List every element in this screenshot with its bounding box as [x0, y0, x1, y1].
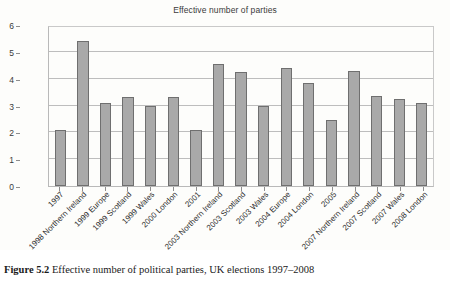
figure-caption-label: Figure 5.2 — [4, 264, 49, 275]
y-tick-label-1: 1 — [0, 155, 14, 165]
bar[interactable] — [258, 106, 269, 187]
bar[interactable] — [326, 120, 337, 186]
bar-slot — [49, 27, 72, 186]
chart-title: Effective number of parties — [0, 5, 450, 15]
bar[interactable] — [122, 97, 133, 186]
chart-area: Effective number of parties 0123456 1997… — [0, 0, 450, 250]
y-tick-mark-1 — [16, 160, 20, 161]
y-tick-mark-0 — [16, 187, 20, 188]
bar-slot — [207, 27, 230, 186]
figure-container: Effective number of parties 0123456 1997… — [0, 0, 450, 290]
bar[interactable] — [371, 96, 382, 186]
bar-slot — [388, 27, 411, 186]
bar-slot — [162, 27, 185, 186]
y-tick-label-5: 5 — [0, 48, 14, 58]
bar[interactable] — [168, 97, 179, 186]
bar-slot — [275, 27, 298, 186]
y-tick-label-2: 2 — [0, 128, 14, 138]
y-tick-label-3: 3 — [0, 102, 14, 112]
bar[interactable] — [55, 130, 66, 186]
bar-slot — [185, 27, 208, 186]
bar[interactable] — [213, 64, 224, 186]
bar-slot — [117, 27, 140, 186]
bar-slot — [252, 27, 275, 186]
bar-slot — [411, 27, 434, 186]
bar[interactable] — [145, 106, 156, 187]
y-tick-mark-3 — [16, 107, 20, 108]
figure-caption: Figure 5.2 Effective number of political… — [4, 264, 446, 277]
y-tick-mark-4 — [16, 80, 20, 81]
bar-slot — [298, 27, 321, 186]
bar[interactable] — [235, 72, 246, 186]
bar[interactable] — [348, 71, 359, 186]
bar-slot — [94, 27, 117, 186]
plot-area — [48, 26, 434, 187]
bar[interactable] — [394, 99, 405, 186]
bar[interactable] — [100, 103, 111, 186]
y-tick-label-6: 6 — [0, 21, 14, 31]
y-tick-label-0: 0 — [0, 182, 14, 192]
x-axis-labels: 19971998 Northern Ireland1999 Europe1999… — [48, 190, 434, 250]
figure-caption-text: Effective number of political parties, U… — [52, 264, 314, 275]
bar-slot — [230, 27, 253, 186]
bar-slot — [320, 27, 343, 186]
y-tick-mark-6 — [16, 26, 20, 27]
bar[interactable] — [190, 130, 201, 186]
bar-series — [49, 27, 433, 186]
bar-slot — [365, 27, 388, 186]
bar[interactable] — [303, 83, 314, 186]
y-tick-label-4: 4 — [0, 75, 14, 85]
y-tick-mark-5 — [16, 53, 20, 54]
bar[interactable] — [77, 41, 88, 186]
y-tick-mark-2 — [16, 133, 20, 134]
bar[interactable] — [416, 103, 427, 186]
bar-slot — [139, 27, 162, 186]
bar[interactable] — [281, 68, 292, 186]
bar-slot — [343, 27, 366, 186]
bar-slot — [72, 27, 95, 186]
